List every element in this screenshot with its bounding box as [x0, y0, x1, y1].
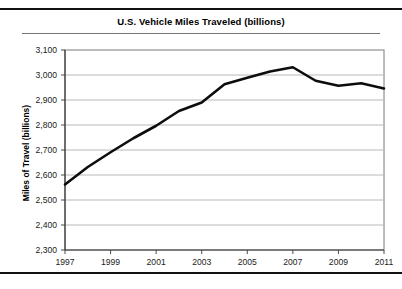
x-tick-label: 2009 — [329, 257, 348, 267]
y-axis-tick-labels: 2,3002,4002,5002,6002,7002,8002,9003,000… — [35, 45, 57, 255]
line-chart-plot: 2,3002,4002,5002,6002,7002,8002,9003,000… — [0, 0, 402, 289]
x-tick-label: 1997 — [55, 257, 74, 267]
x-tick-label: 2005 — [238, 257, 257, 267]
y-tick-label: 2,700 — [35, 145, 57, 155]
figure-container: U.S. Vehicle Miles Traveled (billions) M… — [0, 0, 402, 289]
bottom-divider-rule — [0, 272, 402, 274]
y-tick-label: 2,600 — [35, 170, 57, 180]
y-tick-label: 2,400 — [35, 220, 57, 230]
y-tick-label: 3,000 — [35, 70, 57, 80]
x-tick-label: 2001 — [147, 257, 166, 267]
y-tick-label: 2,500 — [35, 195, 57, 205]
y-tick-label: 2,900 — [35, 95, 57, 105]
x-tick-label: 2007 — [283, 257, 302, 267]
x-axis-tick-labels: 19971999200120032005200720092011 — [55, 257, 393, 267]
x-tick-label: 2003 — [192, 257, 211, 267]
x-axis-tick-marks — [65, 250, 384, 254]
y-tick-label: 2,800 — [35, 120, 57, 130]
y-tick-label: 3,100 — [35, 45, 57, 55]
x-tick-label: 2011 — [375, 257, 394, 267]
y-tick-label: 2,300 — [35, 245, 57, 255]
x-tick-label: 1999 — [101, 257, 120, 267]
